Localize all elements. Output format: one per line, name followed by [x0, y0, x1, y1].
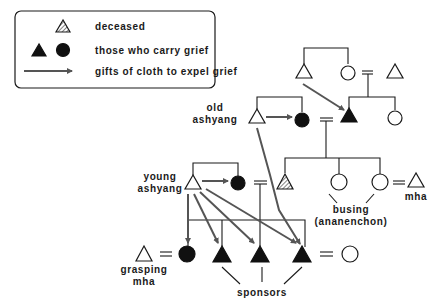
old-ashyang-sister [295, 113, 309, 127]
label-mha: mha [405, 191, 427, 202]
sister-circle [388, 111, 402, 125]
arrow-young-to-sponsor2 [200, 192, 254, 243]
legend-label-gifts: gifts of cloth to expel grief [95, 66, 237, 77]
sponsor-2 [251, 246, 269, 262]
griever-female-bottom [179, 246, 195, 262]
sponsor-3-spouse [342, 246, 358, 262]
sponsor-3 [293, 246, 311, 262]
sponsor-1 [213, 246, 231, 262]
young-ashyang-sister [231, 176, 245, 190]
grasping-mha-triangle [136, 246, 152, 261]
label-sponsors: sponsors [237, 287, 287, 298]
busing-circle-2 [372, 174, 388, 190]
old-ashyang [249, 109, 265, 123]
label-ananenchon: (ananenchon) [315, 216, 388, 227]
kinship-diagram: deceased those who carry grief gifts of … [0, 0, 434, 308]
arrow-young-to-sponsor1 [194, 194, 218, 243]
top-spouse-male [387, 64, 403, 78]
legend: deceased those who carry grief gifts of … [15, 11, 237, 88]
arrow-top-to-griever [303, 84, 344, 110]
label-old: old [207, 102, 224, 113]
top-male [296, 64, 312, 78]
deceased-triangle [277, 174, 293, 189]
label-grasping-mha: mha [133, 276, 155, 287]
label-young: young [144, 171, 177, 182]
grief-carrier-female-icon [57, 44, 70, 57]
legend-label-grief: those who carry grief [95, 45, 209, 56]
label-grasping: grasping [120, 264, 167, 275]
top-generation [296, 48, 403, 125]
busing-circle-1 [331, 174, 347, 190]
label-busing: busing [333, 204, 369, 215]
top-female [341, 66, 355, 80]
young-ashyang [185, 175, 201, 189]
mha-triangle [408, 173, 424, 187]
label-ashyang-young: ashyang [138, 183, 183, 194]
bottom-generation: grasping mha sponsors [120, 246, 358, 298]
label-ashyang: ashyang [193, 114, 238, 125]
legend-label-deceased: deceased [95, 21, 145, 32]
